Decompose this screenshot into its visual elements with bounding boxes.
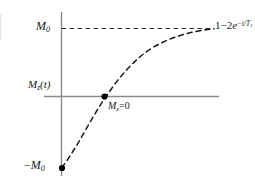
magnetization-recovery-curve (62, 29, 214, 168)
zero-crossing-label: Mz=0 (108, 101, 130, 112)
asymptote-equation-label: 1−2e−t/T1 (215, 20, 253, 31)
zero-crossing-marker (101, 93, 107, 99)
start-point-marker (59, 165, 65, 171)
y-axis-max-label: M0 (36, 20, 50, 34)
inversion-recovery-figure: M0 Mz(t) Mz=0 −M0 1−2e−t/T1 (0, 0, 255, 183)
y-axis-quantity-label: Mz(t) (28, 79, 50, 91)
y-axis-min-label: −M0 (24, 159, 45, 173)
